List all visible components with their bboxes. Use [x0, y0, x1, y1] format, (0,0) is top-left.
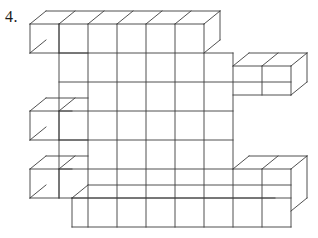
edge-l5-left-back-diag: [30, 185, 46, 198]
front-face-bottom-row: [72, 198, 275, 227]
edge-r4-right-bottom-diag: [291, 198, 307, 211]
edge-top-right-bottom-diagonal: [204, 40, 220, 53]
problem-number-label: 4.: [5, 9, 18, 25]
cube-stack-figure: [0, 0, 318, 238]
figure-container: 4.: [0, 0, 318, 238]
edge-l3-left-back-diag: [30, 127, 46, 140]
edge-r2-right-bottom-diag: [291, 82, 307, 95]
